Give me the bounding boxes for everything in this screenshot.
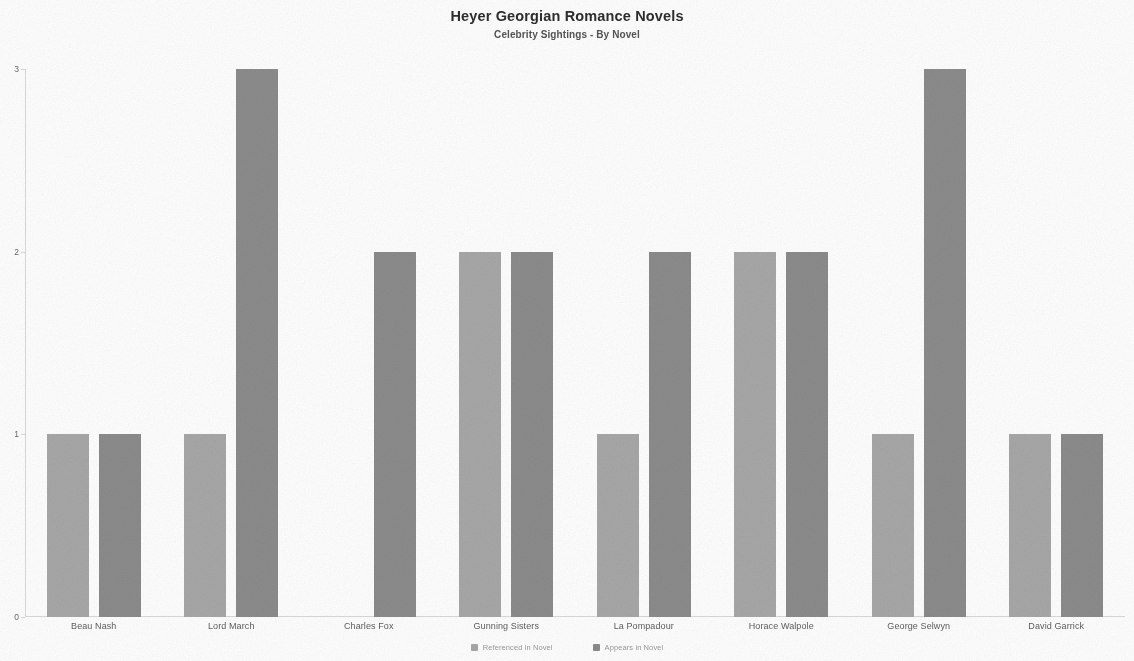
y-axis-tick-mark xyxy=(21,617,25,618)
chart-subtitle: Celebrity Sightings - By Novel xyxy=(0,27,1134,42)
chart-header: Heyer Georgian Romance Novels Celebrity … xyxy=(0,0,1134,42)
legend-swatch-icon xyxy=(593,644,600,651)
x-axis-label: David Garrick xyxy=(988,620,1126,632)
x-axis-label: Gunning Sisters xyxy=(438,620,576,632)
x-axis-labels: Beau NashLord MarchCharles FoxGunning Si… xyxy=(25,620,1125,636)
bar-group xyxy=(734,69,828,617)
x-axis-label: Beau Nash xyxy=(25,620,163,632)
bar[interactable] xyxy=(872,434,914,617)
legend-label: Referenced in Novel xyxy=(483,643,553,652)
y-axis-tick-label: 2 xyxy=(3,248,19,257)
bar[interactable] xyxy=(649,252,691,617)
bar-group xyxy=(597,69,691,617)
x-axis-label: Lord March xyxy=(163,620,301,632)
bar[interactable] xyxy=(459,252,501,617)
bar[interactable] xyxy=(47,434,89,617)
bar-group xyxy=(872,69,966,617)
bar[interactable] xyxy=(511,252,553,617)
bar-group xyxy=(322,69,416,617)
x-axis-label: Charles Fox xyxy=(300,620,438,632)
plot-area: 0123 xyxy=(25,69,1125,617)
bar-group xyxy=(1009,69,1103,617)
legend-item[interactable]: Appears in Novel xyxy=(593,643,664,652)
bar[interactable] xyxy=(236,69,278,617)
x-axis-label: La Pompadour xyxy=(575,620,713,632)
bar[interactable] xyxy=(99,434,141,617)
bar[interactable] xyxy=(924,69,966,617)
bar[interactable] xyxy=(786,252,828,617)
chart-legend: Referenced in NovelAppears in Novel xyxy=(0,643,1134,652)
page-title: Heyer Georgian Romance Novels xyxy=(0,7,1134,25)
y-axis-tick-label: 1 xyxy=(3,430,19,439)
x-axis-label: Horace Walpole xyxy=(713,620,851,632)
x-axis-label: George Selwyn xyxy=(850,620,988,632)
legend-item[interactable]: Referenced in Novel xyxy=(471,643,553,652)
bar[interactable] xyxy=(1061,434,1103,617)
bar[interactable] xyxy=(374,252,416,617)
legend-swatch-icon xyxy=(471,644,478,651)
bar-group xyxy=(184,69,278,617)
bar[interactable] xyxy=(597,434,639,617)
y-axis-tick-label: 3 xyxy=(3,65,19,74)
bar[interactable] xyxy=(734,252,776,617)
bar[interactable] xyxy=(184,434,226,617)
legend-label: Appears in Novel xyxy=(605,643,664,652)
bar-group xyxy=(47,69,141,617)
bars-layer xyxy=(25,69,1125,617)
bar-group xyxy=(459,69,553,617)
bar[interactable] xyxy=(1009,434,1051,617)
y-axis-tick-label: 0 xyxy=(3,613,19,622)
